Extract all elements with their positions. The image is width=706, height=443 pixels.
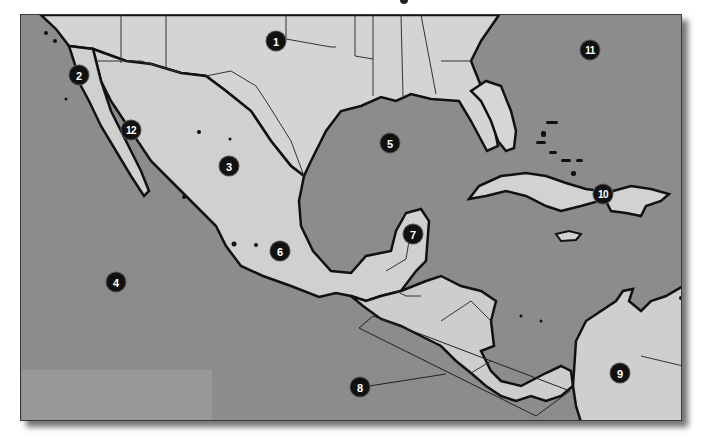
map-canvas <box>21 15 682 421</box>
marker-label: 2 <box>76 69 82 81</box>
callout-leader-line <box>369 374 446 386</box>
map-marker-4[interactable]: 4 <box>107 273 126 292</box>
land-central-america <box>351 276 573 401</box>
marker-label: 3 <box>226 160 232 172</box>
map-frame <box>20 14 682 421</box>
marker-label: 7 <box>410 228 416 240</box>
marker-label: 12 <box>126 125 136 136</box>
marker-label: 11 <box>585 45 595 56</box>
land-jamaica <box>556 231 581 241</box>
map-marker-5[interactable]: 5 <box>381 134 400 153</box>
marker-label: 6 <box>277 245 283 257</box>
land-hispaniola <box>606 186 669 216</box>
land-cuba <box>469 173 601 211</box>
map-marker-1[interactable]: 1 <box>267 32 286 51</box>
title-fragment <box>400 0 408 4</box>
marker-label: 10 <box>598 189 608 200</box>
map-marker-12[interactable]: 12 <box>122 121 141 140</box>
land-bahamas <box>536 121 583 176</box>
map-marker-6[interactable]: 6 <box>271 242 290 261</box>
map-marker-3[interactable]: 3 <box>220 157 239 176</box>
legend-box <box>22 370 212 420</box>
map-marker-10[interactable]: 10 <box>594 185 613 204</box>
marker-label: 1 <box>273 35 279 47</box>
map-marker-2[interactable]: 2 <box>70 66 89 85</box>
marker-label: 8 <box>357 381 363 393</box>
marker-label: 9 <box>617 367 623 379</box>
marker-label: 5 <box>387 137 393 149</box>
marker-label: 4 <box>113 276 119 288</box>
map-marker-7[interactable]: 7 <box>404 225 423 244</box>
map-marker-11[interactable]: 11 <box>581 41 600 60</box>
land-south-america <box>573 286 682 421</box>
map-marker-9[interactable]: 9 <box>611 364 630 383</box>
map-marker-8[interactable]: 8 <box>351 378 370 397</box>
